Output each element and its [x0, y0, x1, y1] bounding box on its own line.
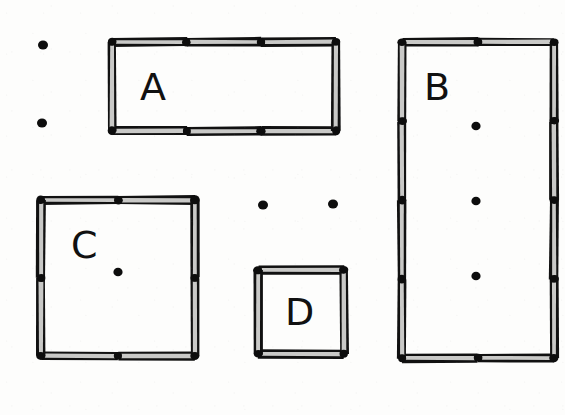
room-c-joint-top-0[interactable]	[36, 195, 45, 204]
wall-segment-fill-room-b-top-0	[405, 40, 475, 44]
floorplan-sketch: ABCD	[0, 0, 565, 415]
wall-segment-fill-room-a-top-1	[190, 40, 259, 44]
room-c-joint-bottom-2[interactable]	[190, 352, 199, 360]
room-c-joint-bottom-1[interactable]	[114, 352, 122, 360]
wall-segment-fill-room-d-bottom-0	[261, 352, 341, 356]
loose-joints-layer	[37, 40, 338, 209]
wall-segment-fill-room-b-left-0	[400, 45, 405, 118]
room-b-joint-right-1[interactable]	[550, 117, 560, 124]
wall-segment-fill-room-a-right-0	[334, 45, 338, 128]
wall-segment-fill-room-a-top-0	[115, 40, 184, 44]
wall-segment-fill-room-b-left-3	[400, 282, 404, 355]
room-c: C	[36, 195, 200, 361]
wall-segment-fill-room-d-left-0	[256, 273, 260, 351]
room-b-joint-bottom-2[interactable]	[549, 354, 558, 362]
loose-dot-3[interactable]	[258, 200, 268, 209]
wall-segment-fill-room-c-right-1	[193, 281, 197, 352]
rooms-layer: ABCD	[36, 37, 559, 363]
room-d-joint-bottom-0[interactable]	[254, 350, 263, 358]
room-b-joint-bottom-0[interactable]	[398, 354, 406, 362]
room-d-joint-bottom-1[interactable]	[340, 350, 348, 358]
wall-segment-fill-room-d-right-0	[342, 273, 347, 351]
room-b-joint-bottom-1[interactable]	[474, 354, 483, 362]
room-b-interior-dot-0[interactable]	[471, 122, 480, 131]
room-a-joint-bottom-3[interactable]	[332, 126, 340, 135]
wall-segment-fill-room-c-left-0	[39, 203, 43, 275]
room-a-joint-top-0[interactable]	[108, 38, 117, 46]
wall-segment-fill-room-c-left-1	[39, 282, 44, 353]
wall-segment-fill-room-a-bottom-1	[190, 129, 258, 133]
room-a-joint-top-1[interactable]	[182, 38, 191, 47]
room-c-joint-top-1[interactable]	[114, 196, 123, 204]
wall-segment-fill-room-a-bottom-0	[115, 129, 184, 134]
room-a-joint-bottom-1[interactable]	[183, 127, 191, 135]
wall-segment-fill-room-c-top-1	[121, 198, 192, 203]
room-c-joint-left-1[interactable]	[37, 274, 45, 282]
room-a: A	[108, 37, 341, 136]
loose-dot-2[interactable]	[37, 118, 47, 127]
room-a-joint-bottom-0[interactable]	[108, 126, 116, 135]
room-d-label: D	[285, 290, 314, 334]
room-b-joint-top-2[interactable]	[550, 39, 559, 46]
wall-segment-fill-room-b-bottom-0	[405, 356, 475, 360]
room-a-joint-top-2[interactable]	[257, 38, 265, 47]
room-b-interior-dot-1[interactable]	[471, 197, 480, 206]
room-c-label: C	[71, 223, 98, 267]
wall-segment-fill-room-b-left-2	[400, 203, 404, 276]
room-c-joint-right-1[interactable]	[190, 274, 199, 282]
room-d-joint-top-0[interactable]	[253, 266, 262, 274]
room-d: D	[253, 265, 349, 359]
wall-segment-fill-room-c-top-0	[44, 198, 115, 202]
room-b-joint-left-2[interactable]	[398, 196, 406, 205]
wall-segment-fill-room-b-bottom-1	[481, 356, 551, 360]
wall-segment-fill-room-c-bottom-0	[44, 354, 115, 359]
wall-segment-fill-room-b-right-2	[552, 203, 556, 276]
room-c-joint-bottom-0[interactable]	[36, 352, 45, 360]
loose-dot-4[interactable]	[328, 199, 338, 208]
wall-segment-fill-room-c-right-0	[193, 203, 197, 274]
room-b-joint-top-0[interactable]	[397, 39, 406, 47]
wall-segment-fill-room-a-left-0	[110, 45, 115, 128]
room-c-joint-top-2[interactable]	[190, 195, 200, 204]
sketch-canvas: ABCD	[0, 0, 565, 415]
wall-segment-fill-room-a-top-2	[265, 40, 333, 44]
room-b-joint-top-1[interactable]	[474, 38, 483, 47]
room-a-joint-bottom-2[interactable]	[256, 127, 265, 135]
wall-segment-fill-room-a-bottom-2	[264, 129, 333, 133]
wall-segment-fill-room-b-left-1	[400, 124, 405, 197]
wall-segment-fill-room-b-right-0	[552, 45, 556, 118]
room-a-label: A	[140, 65, 166, 109]
room-b-joint-left-1[interactable]	[398, 117, 407, 125]
loose-dot-1[interactable]	[38, 40, 48, 49]
wall-segment-fill-room-b-top-1	[481, 40, 551, 44]
wall-segment-fill-room-b-right-1	[552, 124, 557, 197]
wall-segment-fill-room-c-bottom-1	[121, 354, 192, 359]
wall-segment-fill-room-b-right-3	[552, 282, 556, 355]
room-b: B	[397, 37, 559, 363]
room-c-interior-dot-0[interactable]	[113, 268, 122, 277]
room-b-joint-right-3[interactable]	[550, 275, 559, 283]
room-b-joint-left-3[interactable]	[398, 275, 407, 284]
room-d-joint-top-1[interactable]	[339, 266, 348, 274]
room-b-interior-dot-2[interactable]	[471, 272, 480, 281]
wall-segment-fill-room-d-top-0	[261, 268, 341, 272]
room-a-joint-top-3[interactable]	[332, 38, 340, 45]
room-b-joint-right-2[interactable]	[550, 196, 559, 204]
room-b-label: B	[424, 65, 450, 109]
